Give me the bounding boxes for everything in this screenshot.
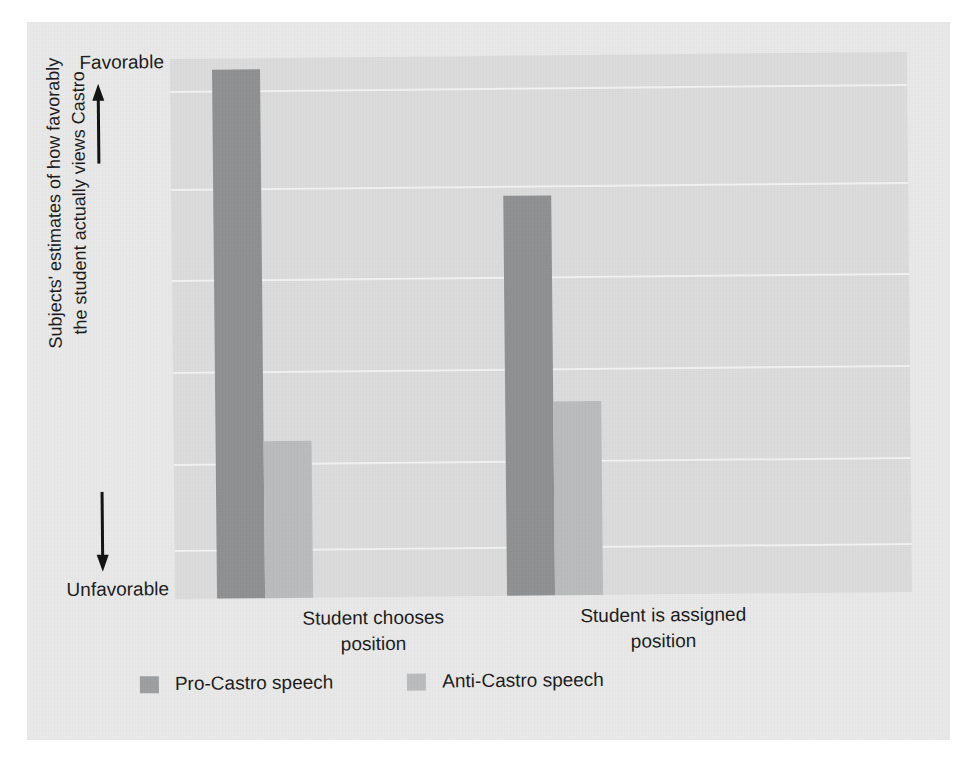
x-axis-category-label: Student chooses position bbox=[243, 604, 503, 658]
y-axis: Favorable Subjects' estimates of how fav… bbox=[27, 25, 175, 626]
y-axis-title: Subjects' estimates of how favorably the… bbox=[40, 22, 94, 403]
bars-layer bbox=[170, 52, 912, 599]
bar-pro-castro bbox=[212, 69, 265, 599]
legend-swatch-pro bbox=[140, 676, 159, 693]
x-axis-category-label: Student is assigned position bbox=[533, 601, 793, 655]
legend-swatch-anti bbox=[407, 673, 426, 690]
bar-anti-castro bbox=[264, 441, 314, 598]
plot-area bbox=[170, 52, 912, 599]
legend-label: Anti-Castro speech bbox=[442, 669, 604, 693]
figure-panel: Favorable Subjects' estimates of how fav… bbox=[27, 22, 950, 740]
legend-entry: Anti-Castro speech bbox=[407, 669, 604, 693]
legend-entry: Pro-Castro speech bbox=[140, 672, 334, 696]
x-axis: Student chooses position Student is assi… bbox=[175, 600, 913, 667]
arrow-up-icon bbox=[91, 84, 106, 164]
bar-pro-castro bbox=[503, 196, 555, 596]
bar-anti-castro bbox=[553, 401, 603, 596]
chart-legend: Pro-Castro speechAnti-Castro speech bbox=[140, 668, 678, 695]
legend-label: Pro-Castro speech bbox=[175, 672, 334, 696]
chart-body: Favorable Subjects' estimates of how fav… bbox=[27, 22, 950, 740]
y-axis-bottom-label: Unfavorable bbox=[29, 578, 169, 601]
arrow-down-icon bbox=[95, 492, 110, 572]
